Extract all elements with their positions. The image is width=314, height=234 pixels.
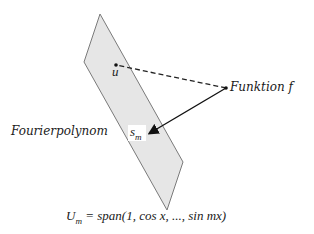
label-span: Um = span(1, cos x, ..., sin mx) [66, 208, 226, 226]
s-subscript: m [135, 132, 142, 142]
diagram-canvas: u Funktion f Fourierpolynom sm Um = span… [0, 0, 314, 234]
U-symbol: U [66, 208, 75, 223]
label-u: u [112, 64, 119, 80]
U-subscript: m [75, 216, 82, 226]
label-fourierpolynom: Fourierpolynom [11, 124, 108, 138]
label-funktion-f: Funktion f [230, 80, 293, 94]
diagram-svg [0, 0, 314, 234]
projection-arrow [150, 88, 226, 133]
span-expression: = span(1, cos x, ..., sin mx) [82, 208, 226, 223]
label-s-m: sm [130, 124, 142, 142]
subspace-plane [84, 14, 183, 210]
point-f-dot [224, 86, 228, 90]
